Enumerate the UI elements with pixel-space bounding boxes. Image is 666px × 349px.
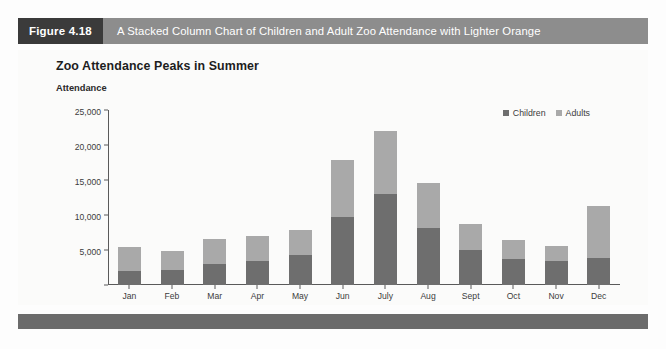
y-axis-tick-label: 10,000 xyxy=(75,212,108,222)
y-axis-tick-label: 5,000 xyxy=(79,247,108,257)
bar-stack[interactable] xyxy=(374,131,397,285)
bar-stack[interactable] xyxy=(545,246,568,285)
bar-segment-children[interactable] xyxy=(161,270,184,285)
bar-segment-adults[interactable] xyxy=(246,236,269,261)
x-axis-tick: Oct xyxy=(492,285,535,305)
bar-segment-adults[interactable] xyxy=(331,160,354,217)
x-axis-tick-label: Sept xyxy=(449,291,492,301)
bar-segment-adults[interactable] xyxy=(203,239,226,264)
bar-group[interactable] xyxy=(492,110,535,285)
bar-series-container xyxy=(108,110,620,285)
x-axis-tick: Jan xyxy=(108,285,151,305)
bar-segment-adults[interactable] xyxy=(545,246,568,261)
y-axis-tick: 25,000 xyxy=(75,101,108,119)
bar-segment-adults[interactable] xyxy=(118,247,141,271)
bar-group[interactable] xyxy=(108,110,151,285)
bar-group[interactable] xyxy=(364,110,407,285)
y-axis-tick-label: 25,000 xyxy=(75,107,108,117)
y-axis-tick: 15,000 xyxy=(75,171,108,189)
bar-segment-adults[interactable] xyxy=(459,224,482,250)
bar-segment-children[interactable] xyxy=(289,255,312,285)
x-axis-tick-label: Aug xyxy=(407,291,450,301)
bar-stack[interactable] xyxy=(161,251,184,285)
x-axis-tick-label: Oct xyxy=(492,291,535,301)
x-axis-tick-mark xyxy=(428,285,429,289)
figure-caption-bar: Figure 4.18 A Stacked Column Chart of Ch… xyxy=(18,18,648,44)
bar-segment-adults[interactable] xyxy=(502,240,525,259)
bar-segment-adults[interactable] xyxy=(374,131,397,194)
x-axis-tick-label: Nov xyxy=(535,291,578,301)
figure-number-tag: Figure 4.18 xyxy=(18,18,103,44)
bar-segment-children[interactable] xyxy=(417,228,440,285)
bar-segment-children[interactable] xyxy=(246,261,269,285)
y-axis-tick-mark xyxy=(104,180,108,181)
x-axis-tick-mark xyxy=(342,285,343,289)
y-axis-tick-label: 20,000 xyxy=(75,142,108,152)
bar-stack[interactable] xyxy=(118,247,141,285)
bar-group[interactable] xyxy=(577,110,620,285)
y-axis-tick-mark xyxy=(104,215,108,216)
bar-segment-adults[interactable] xyxy=(587,206,610,258)
figure-page: Figure 4.18 A Stacked Column Chart of Ch… xyxy=(0,0,666,349)
x-axis-tick-label: Feb xyxy=(151,291,194,301)
x-axis-tick-mark xyxy=(556,285,557,289)
x-axis-tick: Dec xyxy=(577,285,620,305)
bar-segment-adults[interactable] xyxy=(417,183,440,228)
x-axis-tick-label: Mar xyxy=(193,291,236,301)
footer-band xyxy=(18,314,648,329)
x-axis-tick-mark xyxy=(257,285,258,289)
x-axis-tick-mark xyxy=(129,285,130,289)
figure-caption-text: A Stacked Column Chart of Children and A… xyxy=(103,18,648,44)
chart-panel: Zoo Attendance Peaks in Summer Attendanc… xyxy=(18,50,648,305)
bar-stack[interactable] xyxy=(502,240,525,285)
x-axis-ticks: JanFebMarAprMayJunJulyAugSeptOctNovDec xyxy=(108,285,620,305)
x-axis-tick: May xyxy=(279,285,322,305)
bar-segment-adults[interactable] xyxy=(161,251,184,271)
x-axis-tick-label: May xyxy=(279,291,322,301)
bar-stack[interactable] xyxy=(203,239,226,285)
x-axis-tick-label: Jun xyxy=(321,291,364,301)
x-axis-tick-mark xyxy=(300,285,301,289)
plot-area: 5,00010,00015,00020,00025,000 xyxy=(108,110,620,285)
y-axis-tick: 10,000 xyxy=(75,206,108,224)
x-axis-tick-label: Jan xyxy=(108,291,151,301)
bar-segment-children[interactable] xyxy=(545,261,568,285)
y-axis-tick-mark xyxy=(104,250,108,251)
x-axis-tick-mark xyxy=(513,285,514,289)
bar-group[interactable] xyxy=(407,110,450,285)
y-axis-tick-mark xyxy=(104,145,108,146)
bar-group[interactable] xyxy=(449,110,492,285)
bar-segment-children[interactable] xyxy=(374,194,397,285)
x-axis-tick: Nov xyxy=(535,285,578,305)
x-axis-tick: Jun xyxy=(321,285,364,305)
x-axis-tick-mark xyxy=(598,285,599,289)
x-axis-tick: Mar xyxy=(193,285,236,305)
bar-segment-adults[interactable] xyxy=(289,230,312,255)
bar-stack[interactable] xyxy=(246,236,269,285)
y-axis-title: Attendance xyxy=(56,83,107,93)
bar-segment-children[interactable] xyxy=(502,259,525,285)
bar-segment-children[interactable] xyxy=(331,217,354,285)
bar-stack[interactable] xyxy=(417,183,440,285)
x-axis-tick: Apr xyxy=(236,285,279,305)
x-axis-tick: July xyxy=(364,285,407,305)
bar-segment-children[interactable] xyxy=(459,250,482,285)
bar-stack[interactable] xyxy=(331,160,354,285)
bar-segment-children[interactable] xyxy=(587,258,610,285)
bar-group[interactable] xyxy=(151,110,194,285)
bar-stack[interactable] xyxy=(587,206,610,285)
bar-segment-children[interactable] xyxy=(118,271,141,285)
bar-stack[interactable] xyxy=(459,224,482,285)
bar-group[interactable] xyxy=(193,110,236,285)
bar-group[interactable] xyxy=(279,110,322,285)
x-axis-tick-label: Dec xyxy=(577,291,620,301)
bar-group[interactable] xyxy=(535,110,578,285)
chart-title: Zoo Attendance Peaks in Summer xyxy=(56,59,259,73)
x-axis-tick-mark xyxy=(172,285,173,289)
bar-group[interactable] xyxy=(321,110,364,285)
x-axis-tick-label: July xyxy=(364,291,407,301)
bar-stack[interactable] xyxy=(289,230,312,285)
x-axis-tick: Feb xyxy=(151,285,194,305)
bar-group[interactable] xyxy=(236,110,279,285)
bar-segment-children[interactable] xyxy=(203,264,226,285)
